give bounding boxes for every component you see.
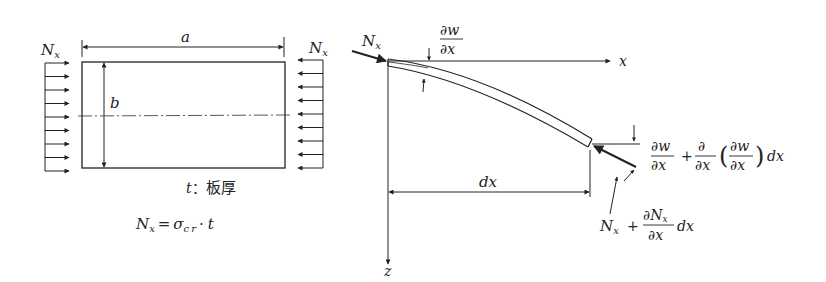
svg-text:∂: ∂: [698, 138, 705, 154]
svg-text:+: +: [627, 218, 639, 234]
plate-figure: a b Nx: [40, 28, 328, 234]
svg-text:∂x: ∂x: [695, 157, 710, 173]
element-figure: x z Nx ∂w ∂x dx: [352, 22, 784, 279]
z-axis-label: z: [383, 263, 392, 279]
svg-text:∂x: ∂x: [651, 157, 666, 173]
svg-text:∂w: ∂w: [730, 138, 749, 154]
svg-text:∂x: ∂x: [440, 41, 455, 57]
svg-text:): ): [755, 142, 764, 170]
x-axis-label: x: [619, 53, 627, 69]
dim-b-label: b: [110, 94, 120, 112]
svg-text:∂Nx: ∂Nx: [643, 207, 668, 224]
right-distributed-load: Nx: [298, 39, 328, 168]
svg-text:dx: dx: [767, 148, 784, 164]
slope-top-label: ∂w ∂x: [440, 22, 463, 57]
svg-text:dx: dx: [677, 218, 694, 234]
thickness-note: t：板厚: [186, 179, 236, 197]
svg-text:∂x: ∂x: [730, 157, 745, 173]
force-label-left: Nx: [361, 32, 381, 51]
centerline: [78, 115, 290, 116]
dim-a-label: a: [181, 28, 190, 46]
diagram-canvas: a b Nx: [0, 0, 826, 282]
left-distributed-load: Nx: [40, 41, 69, 171]
svg-text:∂w: ∂w: [440, 22, 459, 38]
svg-text:Nx: Nx: [599, 217, 619, 236]
dimension-a: a: [82, 28, 284, 57]
force-arrow-left: [352, 51, 386, 61]
slope-end-label: ∂w ∂x + ∂ ∂x ( ∂w ∂x ) dx: [651, 138, 784, 173]
svg-text:(: (: [719, 142, 728, 170]
svg-text:∂w: ∂w: [651, 138, 670, 154]
svg-text:∂x: ∂x: [648, 227, 663, 243]
slope-marker-bottom: [423, 79, 424, 92]
load-label-left: Nx: [40, 41, 60, 60]
dimension-b: b: [104, 63, 120, 167]
dx-label: dx: [479, 173, 498, 191]
force-arrow-right: [594, 146, 636, 167]
slope-marker-end-lower: [624, 170, 634, 181]
load-label-right: Nx: [308, 39, 328, 58]
force-leader: [610, 177, 617, 214]
svg-text:+: +: [681, 148, 693, 164]
critical-load-formula: Nx=σcr·t: [135, 215, 215, 234]
deflected-element: [388, 59, 592, 147]
force-end-label: Nx + ∂Nx ∂x dx: [599, 207, 694, 243]
